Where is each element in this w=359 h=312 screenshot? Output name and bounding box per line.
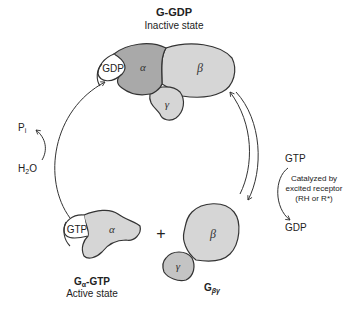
gamma-symbol-inactive: γ	[165, 98, 170, 110]
h2o-label: H2O	[18, 163, 37, 175]
reassociation-arrow	[55, 82, 105, 218]
gamma-symbol-free: γ	[176, 260, 181, 272]
alpha-symbol-inactive: α	[140, 61, 146, 73]
inactive-title: G-GDP	[156, 6, 192, 18]
gdp-label-inactive: GDP	[102, 63, 124, 74]
catalyst-line-2: excited receptor	[286, 184, 343, 193]
beta-gamma-complex: β γ	[163, 204, 239, 281]
beta-symbol-inactive: β	[196, 61, 203, 75]
gtp-label-active: GTP	[67, 224, 88, 235]
catalyst-line-3: (RH or R*)	[295, 194, 333, 203]
gtp-in-label: GTP	[285, 153, 306, 164]
catalyst-line-1: Catalyzed by	[291, 174, 337, 183]
beta-symbol-free: β	[209, 227, 216, 241]
plus-sign: +	[156, 225, 165, 242]
hydrolysis-arrow	[36, 130, 45, 160]
exchange-arrow	[278, 168, 290, 220]
active-title: Gα-GTP	[74, 276, 110, 288]
inactive-subtitle: Inactive state	[145, 20, 204, 31]
active-alpha-complex: GTP α	[64, 210, 140, 258]
alpha-symbol-active: α	[109, 223, 115, 235]
inactive-complex: GDP α β γ	[97, 44, 235, 120]
beta-gamma-title: Gβγ	[204, 282, 221, 295]
active-subtitle: Active state	[66, 288, 118, 299]
gdp-out-label: GDP	[285, 222, 307, 233]
g-protein-cycle-diagram: G-GDP Inactive state GDP α β γ Pi H2O GT…	[0, 0, 359, 312]
pi-label: Pi	[18, 122, 27, 134]
